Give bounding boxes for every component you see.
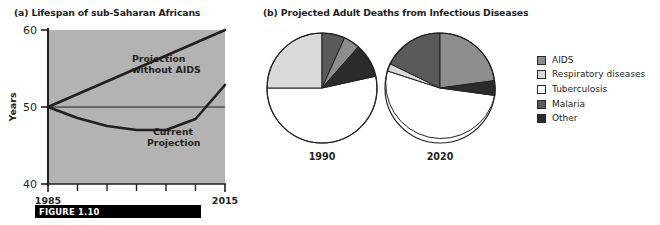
pie-1990-label: 1990: [309, 151, 336, 162]
legend-swatch-tuberculosis: [537, 85, 546, 94]
annotation-projection-without-aids-line1: Projection: [132, 53, 185, 64]
legend-swatch-malaria: [537, 100, 546, 109]
pie-legend: AIDS Respiratory diseases Tuberculosis M…: [537, 53, 645, 126]
x-tick-label-2015: 2015: [212, 195, 238, 206]
pie-2020-slice-aids: [440, 33, 494, 88]
legend-item-aids: AIDS: [537, 53, 645, 68]
legend-swatch-other: [537, 114, 546, 123]
legend-label-malaria: Malaria: [552, 100, 585, 109]
pie-1990-slice-respiratory: [267, 33, 322, 88]
legend-item-respiratory-diseases: Respiratory diseases: [537, 68, 645, 83]
panel-a-title: (a) Lifespan of sub-Saharan Africans: [14, 7, 200, 18]
panel-b-projected-deaths: (b) Projected Adult Deaths from Infectio…: [245, 0, 660, 225]
legend-label-other: Other: [552, 114, 578, 123]
figure-caption-bar: FIGURE 1.10: [35, 205, 201, 218]
y-axis-label: Years: [7, 92, 18, 123]
legend-swatch-respiratory-diseases: [537, 70, 546, 79]
legend-label-tuberculosis: Tuberculosis: [552, 85, 607, 94]
lifespan-line-chart: 60 50 40 1985 2015 Years Projection with…: [0, 18, 245, 208]
legend-item-malaria: Malaria: [537, 97, 645, 112]
pie-chart-1990: [267, 33, 377, 143]
panel-a-lifespan: (a) Lifespan of sub-Saharan Africans 60 …: [0, 0, 245, 225]
y-tick-label-50: 50: [23, 101, 37, 114]
legend-swatch-aids: [537, 56, 546, 65]
pie-2020-label: 2020: [427, 151, 454, 162]
annotation-current-projection-line2: Projection: [147, 137, 200, 148]
annotation-projection-without-aids-line2: without AIDS: [132, 64, 201, 75]
y-tick-label-60: 60: [23, 24, 37, 37]
legend-label-respiratory-diseases: Respiratory diseases: [552, 70, 645, 79]
figure-caption-label: FIGURE 1.10: [39, 207, 99, 217]
y-tick-label-40: 40: [23, 178, 37, 191]
legend-label-aids: AIDS: [552, 56, 573, 65]
pie-chart-2020: [385, 33, 495, 143]
legend-item-other: Other: [537, 111, 645, 126]
annotation-current-projection-line1: Current: [153, 126, 194, 137]
legend-item-tuberculosis: Tuberculosis: [537, 82, 645, 97]
